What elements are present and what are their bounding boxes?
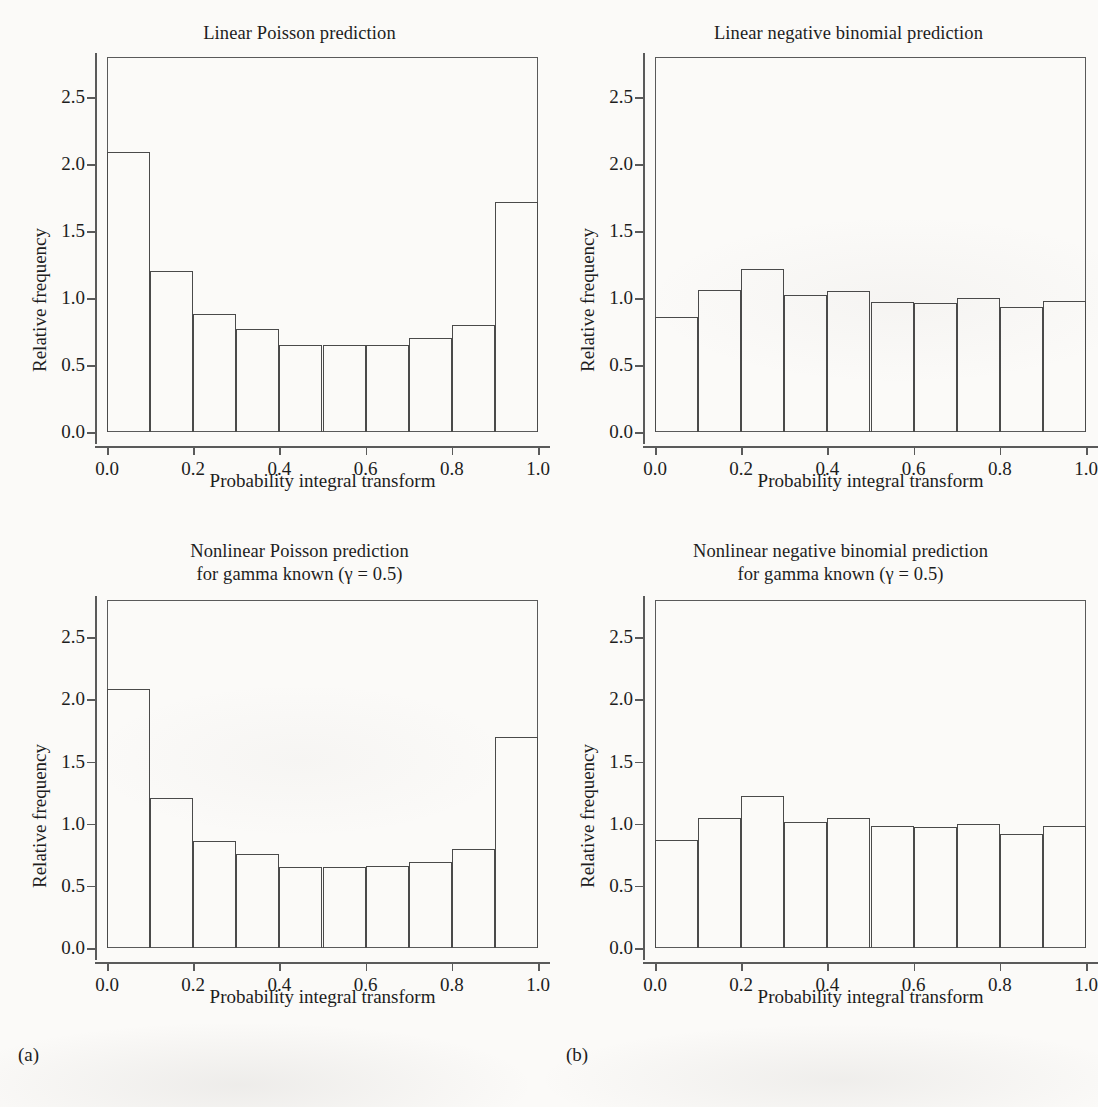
y-tick-label-top-right-5: 2.5 <box>585 86 633 108</box>
y-tick-bottom-right-3 <box>635 762 643 764</box>
histogram-bar <box>741 269 784 432</box>
x-tick-bottom-left-0 <box>107 963 109 971</box>
y-axis-top-left <box>95 53 97 444</box>
panel-title-bottom-left: Nonlinear Poisson prediction for gamma k… <box>60 540 539 586</box>
x-tick-top-left-4 <box>452 447 454 455</box>
x-tick-top-right-5 <box>1086 447 1088 455</box>
x-axis-bottom-left <box>95 962 550 964</box>
x-axis-label-top-right: Probability integral transform <box>655 470 1086 492</box>
y-tick-top-right-1 <box>635 365 643 367</box>
x-tick-top-left-0 <box>107 447 109 455</box>
x-axis-bottom-right <box>643 962 1098 964</box>
y-tick-label-bottom-right-0: 0.0 <box>585 937 633 959</box>
y-axis-bottom-left <box>95 596 97 960</box>
x-tick-bottom-right-4 <box>1000 963 1002 971</box>
x-tick-bottom-left-1 <box>193 963 195 971</box>
histogram-bar <box>827 818 870 949</box>
y-tick-bottom-right-0 <box>635 948 643 950</box>
histogram-bar <box>1043 826 1086 948</box>
histogram-bar <box>107 689 150 948</box>
y-axis-label-bottom-left: Relative frequency <box>29 744 51 888</box>
histogram-bar <box>452 325 495 432</box>
histogram-bar <box>193 314 236 432</box>
y-tick-label-top-right-0: 0.0 <box>585 421 633 443</box>
y-axis-label-top-right: Relative frequency <box>577 228 599 372</box>
histogram-bar <box>323 867 366 948</box>
y-tick-bottom-left-5 <box>87 637 95 639</box>
histogram-bar <box>279 867 322 948</box>
y-tick-top-left-5 <box>87 97 95 99</box>
y-axis-top-right <box>643 53 645 444</box>
histogram-bar <box>698 290 741 432</box>
histogram-bar <box>150 798 193 948</box>
y-tick-top-right-0 <box>635 432 643 434</box>
x-axis-label-bottom-right: Probability integral transform <box>655 986 1086 1008</box>
histogram-bar <box>914 827 957 948</box>
histogram-bar <box>655 317 698 432</box>
y-tick-bottom-right-5 <box>635 637 643 639</box>
histogram-bar <box>236 854 279 948</box>
y-tick-top-left-1 <box>87 365 95 367</box>
histogram-bar <box>1000 834 1043 948</box>
y-tick-top-right-4 <box>635 164 643 166</box>
y-axis-label-top-left: Relative frequency <box>29 228 51 372</box>
y-tick-bottom-right-2 <box>635 824 643 826</box>
y-tick-bottom-left-1 <box>87 886 95 888</box>
y-tick-label-top-right-4: 2.0 <box>585 153 633 175</box>
y-tick-top-right-5 <box>635 97 643 99</box>
x-tick-top-left-3 <box>366 447 368 455</box>
x-axis-label-bottom-left: Probability integral transform <box>107 986 538 1008</box>
histogram-bar <box>107 152 150 432</box>
histogram-bar <box>957 298 1000 432</box>
histogram-bar <box>279 345 322 432</box>
histogram-bar <box>409 338 452 432</box>
x-tick-top-right-1 <box>741 447 743 455</box>
y-tick-label-top-left-0: 0.0 <box>37 421 85 443</box>
histogram-bar <box>957 824 1000 948</box>
histogram-bar <box>655 840 698 948</box>
x-tick-top-left-1 <box>193 447 195 455</box>
x-axis-top-left <box>95 446 550 448</box>
x-tick-bottom-right-3 <box>914 963 916 971</box>
x-tick-bottom-right-1 <box>741 963 743 971</box>
histogram-bar <box>150 271 193 432</box>
subfigure-label-b: (b) <box>566 1044 588 1066</box>
y-tick-top-right-3 <box>635 231 643 233</box>
y-tick-label-bottom-right-5: 2.5 <box>585 626 633 648</box>
histogram-bar <box>495 202 538 432</box>
x-tick-top-right-4 <box>1000 447 1002 455</box>
y-tick-top-left-2 <box>87 298 95 300</box>
histogram-bar <box>366 345 409 432</box>
histogram-bar <box>236 329 279 432</box>
histogram-bar <box>698 818 741 949</box>
x-tick-bottom-left-5 <box>538 963 540 971</box>
y-tick-label-bottom-left-5: 2.5 <box>37 626 85 648</box>
histogram-bar <box>827 291 870 432</box>
panel-title-bottom-right: Nonlinear negative binomial prediction f… <box>589 540 1092 586</box>
histogram-bar <box>323 345 366 432</box>
histogram-bar <box>784 295 827 432</box>
histogram-bar <box>409 862 452 948</box>
x-tick-bottom-right-2 <box>827 963 829 971</box>
y-tick-label-bottom-left-4: 2.0 <box>37 688 85 710</box>
y-tick-top-left-3 <box>87 231 95 233</box>
x-axis-label-top-left: Probability integral transform <box>107 470 538 492</box>
x-tick-bottom-right-5 <box>1086 963 1088 971</box>
histogram-bar <box>452 849 495 948</box>
histogram-bar <box>366 866 409 948</box>
y-tick-label-top-left-4: 2.0 <box>37 153 85 175</box>
y-axis-bottom-right <box>643 596 645 960</box>
histogram-bar <box>871 826 914 948</box>
histogram-bar <box>495 737 538 948</box>
x-tick-bottom-left-3 <box>366 963 368 971</box>
y-tick-top-right-2 <box>635 298 643 300</box>
histogram-bar <box>871 302 914 432</box>
x-tick-bottom-left-2 <box>279 963 281 971</box>
y-tick-bottom-left-4 <box>87 699 95 701</box>
subfigure-label-a: (a) <box>18 1044 39 1066</box>
x-tick-top-right-0 <box>655 447 657 455</box>
panel-title-top-right: Linear negative binomial prediction <box>609 22 1088 45</box>
x-tick-top-right-3 <box>914 447 916 455</box>
y-axis-label-bottom-right: Relative frequency <box>577 744 599 888</box>
y-tick-label-top-left-5: 2.5 <box>37 86 85 108</box>
